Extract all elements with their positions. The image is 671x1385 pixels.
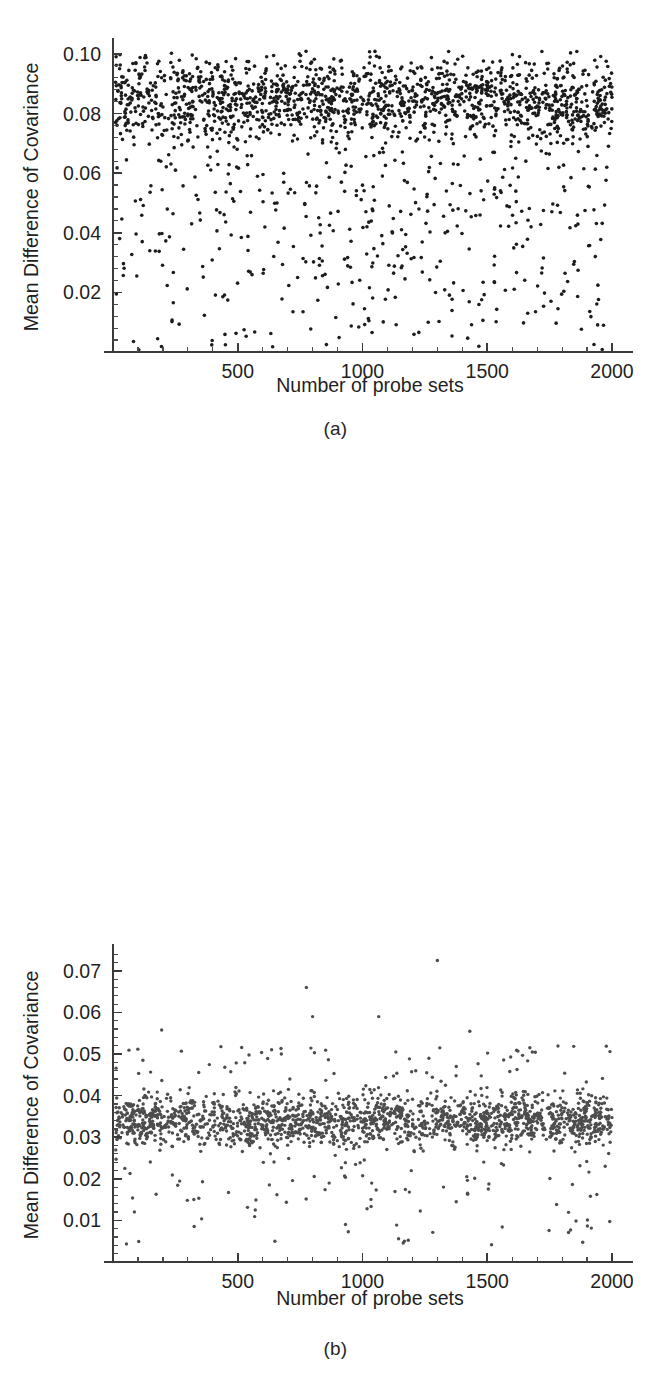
y-axis-title: Mean Difference of Covariance xyxy=(20,971,42,1239)
y-tick-label: 0.02 xyxy=(63,1168,101,1190)
plot-area-a: 0.020.040.060.080.10500100015002000Numbe… xyxy=(0,0,671,460)
y-axis-title: Mean Difference of Covariance xyxy=(20,63,42,331)
x-tick-label: 2000 xyxy=(590,1270,634,1292)
data-points-a xyxy=(114,50,614,352)
x-tick-label: 1500 xyxy=(466,360,510,382)
y-tick-label: 0.02 xyxy=(63,281,101,303)
plot-area-b: 0.020.040.060.080.10500100015002000Numbe… xyxy=(0,460,671,920)
y-tick-label: 0.08 xyxy=(63,103,101,125)
figure-three-panel-scatter: 0.020.040.060.080.10500100015002000Numbe… xyxy=(0,0,671,1385)
plot-area-c: 0.010.020.030.040.050.060.07500100015002… xyxy=(0,920,671,1385)
data-points-c xyxy=(114,959,614,1247)
panel-b: 0.020.040.060.080.10500100015002000Numbe… xyxy=(0,460,671,920)
y-tick-label: 0.03 xyxy=(63,1126,101,1148)
panel-a: 0.020.040.060.080.10500100015002000Numbe… xyxy=(0,0,671,460)
y-tick-label: 0.06 xyxy=(63,162,101,184)
y-tick-label: 0.05 xyxy=(63,1043,101,1065)
x-tick-label: 2000 xyxy=(590,360,634,382)
y-tick-label: 0.04 xyxy=(63,1085,101,1107)
scatter-plot-a: 0.020.040.060.080.10500100015002000Numbe… xyxy=(0,0,671,460)
scatter-plot-c: 0.010.020.030.040.050.060.07500100015002… xyxy=(0,920,671,1385)
y-tick-label: 0.07 xyxy=(63,960,101,982)
x-tick-label: 500 xyxy=(221,360,254,382)
panel-c: 0.010.020.030.040.050.060.07500100015002… xyxy=(0,920,671,1385)
x-axis-title: Number of probe sets xyxy=(276,1287,464,1309)
y-tick-label: 0.01 xyxy=(63,1209,101,1231)
panel-caption-a: (a) xyxy=(0,418,671,440)
scatter-plot-b: 0.020.040.060.080.10500100015002000Numbe… xyxy=(0,460,671,920)
y-tick-label: 0.10 xyxy=(63,43,101,65)
x-axis-title: Number of probe sets xyxy=(276,374,464,396)
y-tick-label: 0.06 xyxy=(63,1001,101,1023)
y-tick-label: 0.04 xyxy=(63,222,101,244)
x-tick-label: 500 xyxy=(221,1270,254,1292)
x-tick-label: 1500 xyxy=(466,1270,510,1292)
